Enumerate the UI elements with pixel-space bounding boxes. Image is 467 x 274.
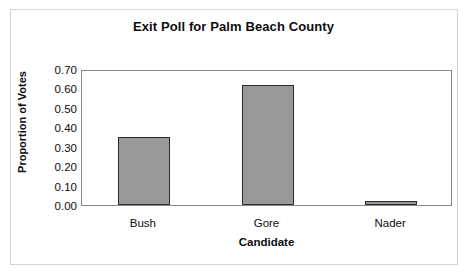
y-axis-tick-label: 0.20 [40, 161, 77, 173]
y-axis-tick-label: 0.70 [40, 64, 77, 76]
y-axis-tick-label: 0.50 [40, 103, 77, 115]
plot-area [81, 70, 452, 206]
x-axis-title: Candidate [81, 236, 452, 248]
y-axis-tick-label: 0.60 [40, 83, 77, 95]
x-axis-tick-label: Bush [81, 216, 205, 230]
chart-figure: Exit Poll for Palm Beach County Proporti… [0, 0, 467, 274]
y-axis-tick-labels: 0.700.600.500.400.300.200.100.00 [40, 62, 77, 214]
chart-title: Exit Poll for Palm Beach County [0, 19, 467, 34]
y-axis-tick-label: 0.10 [40, 181, 77, 193]
x-axis-tick-label: Gore [205, 216, 329, 230]
y-axis-tick-label: 0.40 [40, 122, 77, 134]
y-axis-tick-label: 0.00 [40, 200, 77, 212]
y-axis-title: Proportion of Votes [16, 57, 28, 187]
x-axis-tick-label: Nader [328, 216, 452, 230]
y-axis-tick-label: 0.30 [40, 142, 77, 154]
bar-nader [365, 201, 417, 205]
bars-container [82, 71, 451, 205]
bar-bush [118, 137, 170, 205]
bar-gore [242, 85, 294, 205]
x-axis-tick-labels: BushGoreNader [81, 216, 452, 232]
